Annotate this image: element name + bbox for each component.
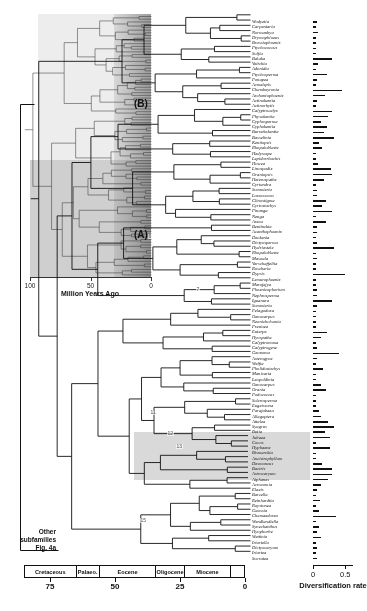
rate-bar <box>313 63 318 65</box>
rate-bar <box>313 190 317 192</box>
rate-bar <box>313 105 316 107</box>
rate-bar <box>313 263 316 265</box>
rate-bar <box>313 368 323 370</box>
rate-axis-tick <box>313 565 314 569</box>
rate-bar <box>313 426 334 428</box>
rate-bar <box>313 447 330 449</box>
rate-bar <box>313 216 316 218</box>
rate-bar <box>313 26 316 28</box>
other-subfamilies-label: Other subfamilies Fig. 4a <box>10 528 56 552</box>
rate-bar <box>313 474 332 476</box>
rate-bar <box>313 363 316 365</box>
rate-bar <box>313 21 317 23</box>
rate-bar <box>313 389 326 391</box>
rate-bar <box>313 90 342 92</box>
rate-bar <box>313 405 316 407</box>
rate-bar <box>313 137 334 139</box>
rate-bar <box>313 410 319 412</box>
rate-bar <box>313 342 316 344</box>
rate-bar <box>313 221 326 223</box>
rate-bar <box>313 74 327 76</box>
rate-bar <box>313 453 316 455</box>
timescale-epoch: Eocene <box>100 566 157 577</box>
timescale-epoch: Palaeo. <box>77 566 100 577</box>
rate-bar <box>313 142 319 144</box>
diversification-rate-bars <box>310 8 364 556</box>
rate-bar <box>313 311 316 313</box>
rate-axis-tick <box>345 565 346 569</box>
rate-bar <box>313 489 317 491</box>
rate-bar <box>313 289 317 291</box>
rate-bar <box>313 95 325 97</box>
rate-bar <box>313 226 317 228</box>
timescale-tick-label: 75 <box>46 582 55 591</box>
rate-bar <box>313 479 328 481</box>
rate-bar <box>313 400 316 402</box>
rate-bar <box>313 332 327 334</box>
timescale-epoch: Miocene <box>185 566 231 577</box>
rate-bar <box>313 500 320 502</box>
rate-bar <box>313 58 332 60</box>
rate-bar <box>313 179 324 181</box>
rate-bar <box>313 163 318 165</box>
rate-bar <box>313 258 317 260</box>
rate-bar <box>313 274 345 276</box>
timescale-epoch: Oligocene <box>156 566 184 577</box>
rate-bar <box>313 484 321 486</box>
rate-bar <box>313 247 334 249</box>
rate-bar <box>313 132 324 134</box>
rate-bar <box>313 211 332 213</box>
rate-bar <box>313 48 316 50</box>
rate-bar <box>313 100 317 102</box>
taxa-label-column: WodyetiaCarpentariaNormanbyaDrymophloeus… <box>252 8 310 556</box>
rate-bar <box>313 416 321 418</box>
rate-bar <box>313 326 316 328</box>
rate-bar <box>313 316 316 318</box>
geologic-timescale: CretaceousPalaeo.EoceneOligoceneMiocene <box>24 565 245 578</box>
rate-axis-line <box>313 565 353 566</box>
other-subfamilies-line2: subfamilies <box>10 536 56 544</box>
other-subfamilies-line3: Fig. 4a <box>10 544 56 552</box>
rate-bar <box>313 495 316 497</box>
rate-bar <box>313 232 317 234</box>
rate-bar <box>313 300 332 302</box>
rate-bar <box>313 174 332 176</box>
rate-bar <box>313 284 316 286</box>
rate-axis-title: Diversification rate <box>299 581 367 590</box>
rate-bar <box>313 253 316 255</box>
rate-bar <box>313 168 331 170</box>
rate-bar <box>313 158 316 160</box>
rate-bar <box>313 268 316 270</box>
rate-bar <box>313 279 316 281</box>
rate-bar <box>313 384 321 386</box>
rate-bar <box>313 353 339 355</box>
rate-bar <box>313 437 330 439</box>
rate-bar <box>313 37 316 39</box>
rate-bar <box>313 205 322 207</box>
other-subfamilies-line1: Other <box>10 528 56 536</box>
rate-bar <box>313 468 332 470</box>
rate-bar <box>313 458 316 460</box>
rate-bar <box>313 531 317 533</box>
node-number: 15 <box>140 518 147 523</box>
node-number: 13 <box>176 444 183 449</box>
rate-bar <box>313 516 336 518</box>
rate-bar <box>313 463 322 465</box>
rate-bar <box>313 537 321 539</box>
node-number: 6 <box>148 234 152 239</box>
node-number: 7 <box>196 287 200 292</box>
rate-bar <box>313 552 316 554</box>
rate-bar <box>313 542 316 544</box>
rate-bar <box>313 116 328 118</box>
main-tree-canvas <box>14 8 254 556</box>
rate-bar <box>313 358 317 360</box>
rate-bar <box>313 295 317 297</box>
rate-bar <box>313 111 332 113</box>
taxon-label: Socratea <box>252 557 268 562</box>
rate-bar <box>313 442 316 444</box>
rate-bar <box>313 547 317 549</box>
rate-bar <box>313 242 317 244</box>
rate-bar <box>313 505 316 507</box>
rate-bar <box>313 526 319 528</box>
